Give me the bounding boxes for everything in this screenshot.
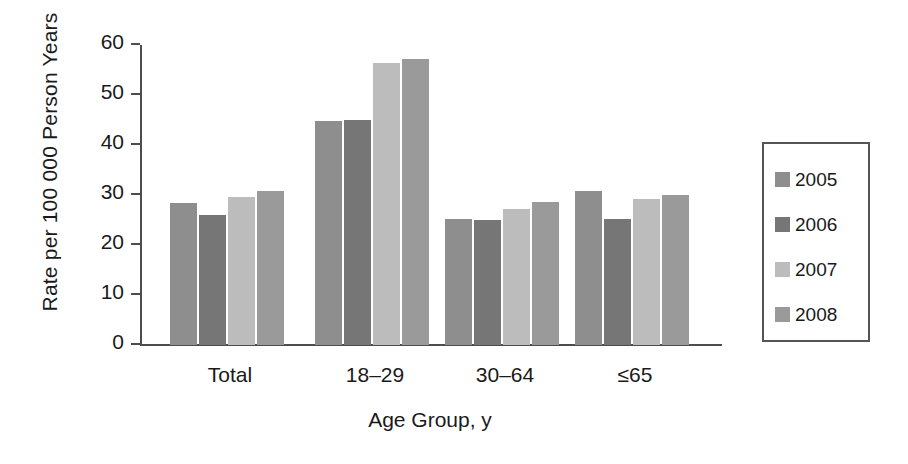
y-tick-30: 30 (131, 193, 140, 195)
legend-item-2008[interactable]: 2008 (775, 292, 868, 337)
y-tick-label-50: 50 (101, 80, 124, 104)
y-tick-label-0: 0 (112, 330, 124, 354)
bar-65-plus-2005[interactable] (575, 191, 602, 346)
bar-chart-figure: Rate per 100 000 Person Years 60 50 40 3… (0, 0, 908, 464)
y-tick-60: 60 (131, 43, 140, 45)
y-tick-label-10: 10 (101, 280, 124, 304)
bar-30-64-2006[interactable] (474, 220, 501, 345)
y-tick-label-20: 20 (101, 230, 124, 254)
bar-65-plus-2008[interactable] (662, 195, 689, 346)
legend-swatch-icon-2006 (775, 217, 790, 232)
bar-30-64-2005[interactable] (445, 219, 472, 345)
y-tick-label-30: 30 (101, 180, 124, 204)
bar-total-2005[interactable] (170, 203, 197, 345)
bar-group-total: Total (170, 45, 290, 345)
bar-18-29-2005[interactable] (315, 121, 342, 345)
x-tick-label-65-plus: ≤65 (545, 363, 725, 387)
legend-swatch-icon-2005 (775, 172, 790, 187)
y-tick-20: 20 (131, 243, 140, 245)
bar-65-plus-2006[interactable] (604, 219, 631, 345)
bar-group-65-plus: ≤65 (575, 45, 695, 345)
legend-label-2006: 2006 (795, 214, 837, 236)
bar-group-30-64: 30–64 (445, 45, 565, 345)
y-axis-title: Rate per 100 000 Person Years (38, 0, 62, 332)
bar-total-2008[interactable] (257, 191, 284, 345)
legend-swatch-icon-2007 (775, 262, 790, 277)
y-tick-10: 10 (131, 293, 140, 295)
bar-total-2007[interactable] (228, 197, 255, 345)
legend-label-2007: 2007 (795, 259, 837, 281)
legend-swatch-icon-2008 (775, 307, 790, 322)
bar-18-29-2007[interactable] (373, 63, 400, 345)
y-tick-40: 40 (131, 143, 140, 145)
bar-18-29-2006[interactable] (344, 120, 371, 345)
y-tick-label-40: 40 (101, 130, 124, 154)
legend-item-2007[interactable]: 2007 (775, 247, 868, 292)
bar-65-plus-2007[interactable] (633, 199, 660, 346)
y-tick-0: 0 (131, 343, 140, 345)
bar-total-2006[interactable] (199, 215, 226, 345)
plot-area: 60 50 40 30 20 10 0 Total (140, 45, 720, 345)
bar-30-64-2008[interactable] (532, 202, 559, 345)
bar-30-64-2007[interactable] (503, 209, 530, 345)
bar-18-29-2008[interactable] (402, 59, 429, 345)
legend-item-2006[interactable]: 2006 (775, 202, 868, 247)
y-tick-label-60: 60 (101, 30, 124, 54)
y-axis-line (140, 45, 142, 346)
legend: 2005 2006 2007 2008 (762, 142, 870, 342)
legend-label-2005: 2005 (795, 169, 837, 191)
legend-item-2005[interactable]: 2005 (775, 157, 868, 202)
x-axis-title: Age Group, y (140, 408, 720, 432)
bar-group-18-29: 18–29 (315, 45, 435, 345)
y-tick-50: 50 (131, 93, 140, 95)
legend-label-2008: 2008 (795, 304, 837, 326)
